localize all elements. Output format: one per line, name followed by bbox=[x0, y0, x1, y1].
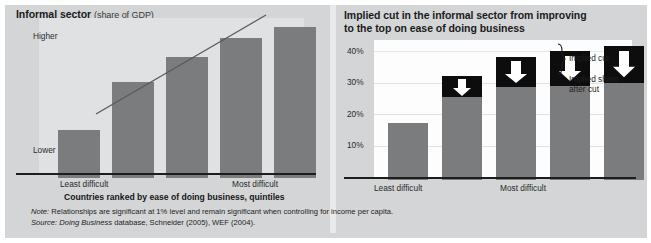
footer-source-text: database, Schneider (2005), WEF (2004). bbox=[112, 218, 255, 227]
down-arrow-icon-3 bbox=[496, 57, 536, 87]
left-x-axis bbox=[16, 173, 316, 175]
left-y-top-label: Higher bbox=[33, 31, 57, 41]
down-arrow-icon-2 bbox=[442, 76, 482, 97]
panel-divider bbox=[330, 0, 336, 233]
legend-after-line2: after cut bbox=[569, 84, 599, 94]
footer-source: Source: Doing Business database, Schneid… bbox=[31, 218, 255, 227]
left-x-caption: Countries ranked by ease of doing busine… bbox=[64, 192, 285, 202]
frame-left-edge bbox=[0, 0, 5, 243]
right-y-label-40: 40% bbox=[347, 46, 364, 56]
right-y-label-10: 10% bbox=[347, 140, 364, 150]
right-x-left-label: Least difficult bbox=[374, 183, 422, 193]
right-x-axis bbox=[344, 177, 636, 179]
left-y-bottom-label: Lower bbox=[33, 145, 56, 155]
right-chart-title-line2: to the top on ease of doing business bbox=[344, 22, 525, 34]
right-y-label-30: 30% bbox=[347, 77, 364, 87]
left-x-right-label: Most difficult bbox=[232, 179, 278, 189]
right-bar-1 bbox=[388, 123, 428, 180]
figure-root: Informal sector (share of GDP) Higher Lo… bbox=[0, 0, 651, 243]
legend-after-line1: Implied share bbox=[569, 74, 619, 84]
footer-note-text: Relationships are significant at 1% leve… bbox=[49, 207, 393, 216]
right-chart-title: Implied cut in the informal sector from … bbox=[344, 9, 587, 34]
right-bar-3-implied-cut bbox=[496, 57, 536, 87]
footer-note: Note: Relationships are significant at 1… bbox=[31, 207, 393, 216]
brace-icon bbox=[556, 43, 566, 75]
footer-source-label: Source: bbox=[31, 218, 57, 227]
right-bar-2-implied-cut bbox=[442, 76, 482, 97]
left-trendline bbox=[16, 18, 316, 178]
right-y-label-20: 20% bbox=[347, 109, 364, 119]
footer-source-italic: Doing Business bbox=[57, 218, 112, 227]
right-bar-2-after-cut bbox=[442, 97, 482, 180]
right-bar-5-after-cut bbox=[604, 83, 644, 180]
right-bar-4-after-cut bbox=[550, 86, 590, 180]
frame-right-edge bbox=[647, 0, 651, 243]
gridline-40 bbox=[374, 51, 632, 52]
right-chart-title-line1: Implied cut in the informal sector from … bbox=[344, 9, 587, 21]
frame-bottom-edge bbox=[0, 238, 651, 243]
left-x-left-label: Least difficult bbox=[60, 179, 108, 189]
legend-implied-share-after-cut: Implied share after cut bbox=[569, 75, 619, 94]
legend-implied-cut: Implied cut bbox=[569, 54, 609, 64]
left-chart bbox=[16, 18, 316, 178]
frame-top-edge bbox=[0, 0, 651, 5]
right-x-right-label: Most difficult bbox=[500, 183, 546, 193]
footer-note-label: Note: bbox=[31, 207, 49, 216]
right-bar-3-after-cut bbox=[496, 87, 536, 180]
